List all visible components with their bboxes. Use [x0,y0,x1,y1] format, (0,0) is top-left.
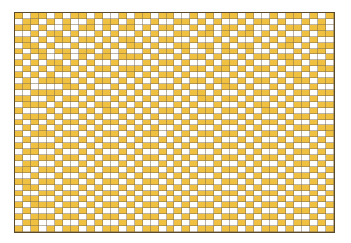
board-cell[interactable] [15,226,23,232]
board-cell[interactable] [87,226,95,232]
board-cell[interactable] [190,226,198,232]
board-cell[interactable] [214,226,222,232]
board-cell[interactable] [182,226,190,232]
board-cell[interactable] [222,226,230,232]
board-cell[interactable] [135,226,143,232]
board-cell[interactable] [326,226,334,232]
board-cell[interactable] [31,226,39,232]
board-cell[interactable] [119,226,127,232]
board-cell[interactable] [23,226,31,232]
board-cell[interactable] [95,226,103,232]
board-cell[interactable] [278,226,286,232]
board-cell[interactable] [238,226,246,232]
board-cell[interactable] [55,226,63,232]
board-cell[interactable] [79,226,87,232]
game-board-grid[interactable] [14,12,335,233]
board-cell[interactable] [294,226,302,232]
board-cell[interactable] [111,226,119,232]
board-cell[interactable] [39,226,47,232]
board-cell[interactable] [310,226,318,232]
board-cell[interactable] [302,226,310,232]
board-cell[interactable] [230,226,238,232]
board-cell[interactable] [254,226,262,232]
board-cell[interactable] [206,226,214,232]
board-cell[interactable] [270,226,278,232]
board-cell[interactable] [47,226,55,232]
board-cell[interactable] [198,226,206,232]
board-cell[interactable] [127,226,135,232]
board-cell[interactable] [318,226,326,232]
board-cell[interactable] [103,226,111,232]
board-cell[interactable] [159,226,167,232]
board-cell[interactable] [286,226,294,232]
board-cell[interactable] [63,226,71,232]
board-cell[interactable] [174,226,182,232]
board-cell[interactable] [246,226,254,232]
board-cell[interactable] [262,226,270,232]
board-cell[interactable] [151,226,159,232]
board-cell[interactable] [71,226,79,232]
board-cell[interactable] [143,226,151,232]
board-cell[interactable] [167,226,175,232]
